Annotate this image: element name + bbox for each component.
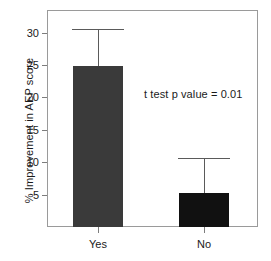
bar-yes <box>73 66 123 227</box>
bar-no <box>179 193 229 227</box>
x-tick-mark <box>98 227 99 233</box>
error-bar-cap <box>178 158 230 159</box>
x-tick-label-yes: Yes <box>63 238 133 250</box>
p-value-annotation: t test p value = 0.01 <box>144 88 242 100</box>
y-tick-mark <box>42 33 47 34</box>
y-tick-mark <box>42 195 47 196</box>
x-tick-mark <box>204 227 205 233</box>
y-tick-label: 15 <box>0 124 39 136</box>
bar-chart-figure: % Improvement in AEP score 51015202530 Y… <box>0 0 271 261</box>
y-tick-label: 10 <box>0 156 39 168</box>
x-tick-label-no: No <box>169 238 239 250</box>
y-tick-label: 5 <box>0 189 39 201</box>
y-tick-mark <box>42 130 47 131</box>
y-tick-mark <box>42 97 47 98</box>
y-tick-mark <box>42 162 47 163</box>
error-bar-stem <box>204 158 205 193</box>
y-tick-label: 25 <box>0 59 39 71</box>
error-bar-stem <box>98 29 99 65</box>
y-tick-label: 20 <box>0 91 39 103</box>
error-bar-cap <box>72 29 124 30</box>
y-tick-mark <box>42 65 47 66</box>
y-tick-label: 30 <box>0 27 39 39</box>
